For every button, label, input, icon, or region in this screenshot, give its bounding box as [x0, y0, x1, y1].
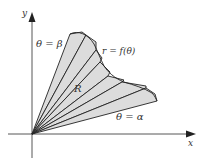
- polar-area-diagram: y x θ = β θ = α r = f(θ) R: [0, 0, 205, 165]
- theta-beta-label: θ = β: [36, 38, 63, 49]
- y-axis-label: y: [21, 8, 28, 18]
- region-label: R: [73, 83, 82, 94]
- theta-alpha-label: θ = α: [116, 111, 144, 122]
- x-axis-label: x: [188, 138, 193, 148]
- x-axis-arrow-icon: [186, 131, 196, 138]
- curve-label: r = f(θ): [102, 46, 136, 56]
- y-axis-arrow-icon: [29, 12, 36, 22]
